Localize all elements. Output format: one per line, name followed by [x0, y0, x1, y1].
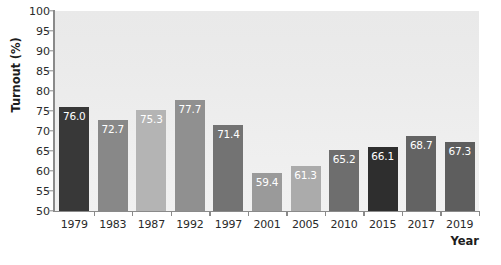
bar-value-label: 72.7: [98, 123, 128, 135]
x-tick-mark: [325, 211, 326, 216]
y-tick-mark: [48, 110, 53, 111]
bar-2015[interactable]: 66.1: [368, 147, 398, 211]
x-tick-mark: [440, 211, 441, 216]
x-tick-mark: [479, 211, 480, 216]
bar-2017[interactable]: 68.7: [406, 136, 436, 211]
y-tick-label: 65: [0, 145, 50, 158]
y-tick-mark: [48, 70, 53, 71]
bar-value-label: 68.7: [406, 139, 436, 151]
x-tick-mark: [209, 211, 210, 216]
y-tick-label: 80: [0, 85, 50, 98]
bar-1987[interactable]: 75.3: [136, 110, 166, 211]
x-tick-label-2017: 2017: [402, 218, 441, 231]
x-tick-label-1997: 1997: [209, 218, 248, 231]
y-tick-label: 100: [0, 5, 50, 18]
bar-value-label: 76.0: [59, 110, 89, 122]
x-tick-label-1987: 1987: [132, 218, 171, 231]
y-tick-mark: [48, 150, 53, 151]
bar-value-label: 61.3: [291, 169, 321, 181]
bar-value-label: 71.4: [213, 128, 243, 140]
y-tick-label: 75: [0, 105, 50, 118]
y-tick-label: 85: [0, 65, 50, 78]
bar-value-label: 77.7: [175, 103, 205, 115]
bar-1997[interactable]: 71.4: [213, 125, 243, 211]
x-tick-label-2015: 2015: [363, 218, 402, 231]
y-tick-label: 95: [0, 25, 50, 38]
bar-2005[interactable]: 61.3: [291, 166, 321, 211]
bar-value-label: 65.2: [329, 153, 359, 165]
y-tick-label: 60: [0, 165, 50, 178]
bar-chart: Turnout (%) 50556065707580859095100 76.0…: [0, 0, 501, 265]
x-tick-mark: [132, 211, 133, 216]
bar-1979[interactable]: 76.0: [59, 107, 89, 211]
bar-2010[interactable]: 65.2: [329, 150, 359, 211]
bar-2001[interactable]: 59.4: [252, 173, 282, 211]
x-tick-label-2001: 2001: [248, 218, 287, 231]
y-tick-mark: [48, 170, 53, 171]
x-tick-label-1992: 1992: [171, 218, 210, 231]
bar-value-label: 66.1: [368, 150, 398, 162]
bar-1983[interactable]: 72.7: [98, 120, 128, 211]
x-tick-mark: [171, 211, 172, 216]
y-tick-mark: [48, 210, 53, 211]
x-tick-mark: [363, 211, 364, 216]
x-tick-label-2010: 2010: [325, 218, 364, 231]
y-tick-mark: [48, 130, 53, 131]
bar-series: 76.072.775.377.771.459.461.365.266.168.7…: [55, 11, 479, 211]
y-tick-label: 90: [0, 45, 50, 58]
y-tick-mark: [48, 90, 53, 91]
x-axis-title: Year: [450, 234, 479, 248]
x-tick-label-1983: 1983: [94, 218, 133, 231]
bar-value-label: 67.3: [445, 145, 475, 157]
y-tick-mark: [48, 190, 53, 191]
y-tick-mark: [48, 10, 53, 11]
x-tick-mark: [286, 211, 287, 216]
bar-value-label: 59.4: [252, 176, 282, 188]
y-tick-mark: [48, 50, 53, 51]
x-tick-label-2019: 2019: [440, 218, 479, 231]
y-tick-label: 70: [0, 125, 50, 138]
x-tick-mark: [402, 211, 403, 216]
x-tick-mark: [248, 211, 249, 216]
y-tick-label: 55: [0, 185, 50, 198]
x-tick-label-1979: 1979: [55, 218, 94, 231]
y-tick-mark: [48, 30, 53, 31]
bar-value-label: 75.3: [136, 113, 166, 125]
bar-2019[interactable]: 67.3: [445, 142, 475, 211]
y-tick-label: 50: [0, 205, 50, 218]
bar-1992[interactable]: 77.7: [175, 100, 205, 211]
x-tick-mark: [94, 211, 95, 216]
x-tick-label-2005: 2005: [286, 218, 325, 231]
